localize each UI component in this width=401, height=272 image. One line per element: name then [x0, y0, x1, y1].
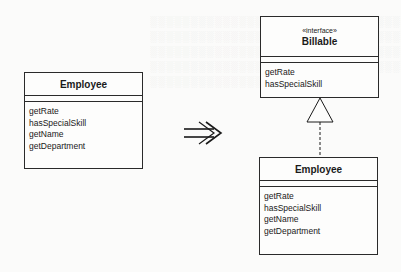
realization-arrow: [307, 98, 333, 157]
double-arrow-icon: [184, 122, 221, 144]
connectors: [0, 0, 401, 272]
hollow-triangle-icon: [307, 98, 333, 122]
